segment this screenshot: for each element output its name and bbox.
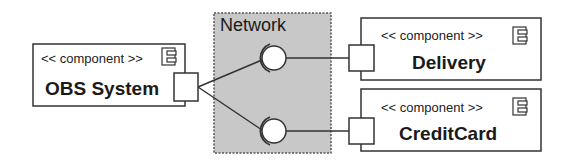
stereotype-label: << component >> (381, 28, 483, 43)
component-icon (513, 98, 527, 115)
component-icon (162, 48, 176, 65)
component-name: OBS System (45, 78, 159, 99)
port (349, 45, 374, 71)
component-name: Delivery (412, 52, 486, 73)
ball-icon (262, 46, 286, 70)
component-delivery[interactable]: << component >> Delivery (349, 18, 541, 80)
network-label: Network (220, 15, 287, 35)
component-obs-system[interactable]: << component >> OBS System (33, 44, 198, 106)
stereotype-label: << component >> (41, 51, 143, 66)
component-name: CreditCard (399, 123, 497, 144)
stereotype-label: << component >> (381, 100, 483, 115)
component-diagram: Network << component >> OBS System << co… (0, 0, 573, 165)
port (349, 118, 374, 144)
ball-icon (262, 119, 286, 143)
component-creditcard[interactable]: << component >> CreditCard (349, 89, 541, 151)
component-icon (513, 27, 527, 44)
port (174, 73, 198, 101)
